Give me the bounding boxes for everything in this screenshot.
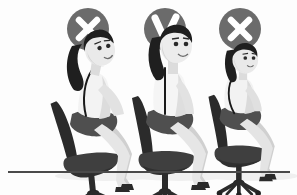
- shoe: [115, 187, 130, 192]
- posture-illustration: [0, 0, 297, 195]
- shoe: [259, 177, 273, 182]
- illustration-canvas: [0, 0, 297, 195]
- eye: [252, 56, 256, 60]
- eye: [174, 42, 179, 47]
- eye: [184, 42, 189, 47]
- eye: [243, 56, 247, 60]
- badge-right: [219, 8, 261, 50]
- shoe: [191, 185, 206, 190]
